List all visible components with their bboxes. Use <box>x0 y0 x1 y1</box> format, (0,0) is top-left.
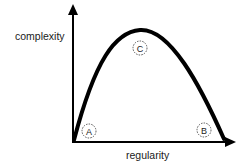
y-axis-label: complexity <box>15 30 65 42</box>
point-b: B <box>197 123 211 137</box>
point-c: C <box>133 41 147 55</box>
svg-text:B: B <box>201 126 207 136</box>
y-axis-arrow-icon <box>68 4 78 15</box>
x-axis-arrow-icon <box>225 137 236 147</box>
x-axis-label: regularity <box>126 149 170 161</box>
svg-text:C: C <box>137 44 144 54</box>
svg-text:A: A <box>86 127 92 137</box>
point-a: A <box>82 124 96 138</box>
complexity-regularity-diagram: complexity regularity A B C <box>0 0 245 167</box>
